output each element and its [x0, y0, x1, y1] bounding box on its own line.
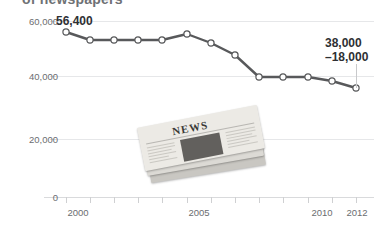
end-callout-leader-line [356, 64, 357, 88]
newspaper-count-line-chart: of newspapers 60,000 40,000 20,000 0 200… [0, 0, 376, 229]
end-value-label: 38,000 [325, 36, 368, 50]
series-line-newspapers [0, 0, 376, 229]
end-delta-label: –18,000 [325, 50, 368, 64]
series-markers [63, 29, 359, 91]
end-value-callout: 38,000 –18,000 [325, 36, 368, 64]
start-value-label: 56,400 [56, 14, 93, 28]
